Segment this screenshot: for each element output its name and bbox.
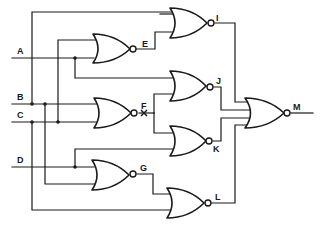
nor-gate-l-body [167,188,204,218]
gate-m [245,98,290,128]
nor-gate-j-bubble [207,84,213,90]
input-label-b: B [17,92,24,102]
wire-i-to-m [215,23,250,102]
nor-gate-g-bubble [130,171,136,177]
gate-f [94,98,137,128]
nor-gate-j-body [170,71,206,101]
nor-gate-f-body [94,98,131,128]
gate-j [170,71,213,101]
wire-c-to-e [58,40,96,122]
nor-gate-k-bubble [206,138,212,144]
input-label-d: D [17,155,24,165]
gate-label-i: I [216,13,219,23]
junction-b-2 [43,102,47,106]
nor-gate-i-bubble [208,20,214,26]
gate-label-j: J [216,76,221,86]
logic-circuit-diagram: A B C D [0,0,320,227]
nor-gate-i-body [170,8,207,38]
nor-gate-f-bubble [131,110,137,116]
junction-c-1 [56,120,60,124]
junction-a [73,56,77,60]
gate-label-k: K [213,144,220,154]
gate-label-g: G [140,163,147,173]
gate-label-l: L [215,192,221,202]
nor-gate-k-body [170,126,206,156]
nor-gate-g-body [92,160,129,190]
gate-label-m: M [293,102,301,112]
wire-d-to-k [75,149,174,167]
junction-b-1 [30,102,34,106]
input-wires [12,58,96,167]
gate-g [92,160,136,190]
nor-gate-l-bubble [205,200,211,206]
nor-gate-e-body [93,34,130,63]
wire-k-to-m [213,118,252,141]
nor-gate-m-bubble [284,110,290,116]
gate-label-f: F [141,101,147,111]
input-label-c: C [17,110,24,120]
wire-g-to-l [137,174,172,194]
gate-label-e: E [142,39,148,49]
wire-a-to-j [75,58,174,78]
junction-c-2 [30,120,34,124]
nor-gate-m-body [245,98,284,128]
input-label-a: A [17,46,24,56]
junction-d [73,165,77,169]
gate-e [93,34,136,63]
nor-gate-e-bubble [130,46,136,52]
gate-l [167,188,211,218]
junction-dots [30,56,77,169]
wire-b-to-g [45,104,96,184]
gate-k [170,126,212,156]
gate-i [170,8,214,38]
